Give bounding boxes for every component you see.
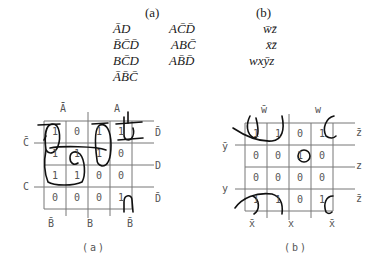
kmap-b-cell: 0 xyxy=(267,167,289,189)
kmap-b-left-label-0: ȳ xyxy=(222,141,228,152)
kmap-b-cell: 0 xyxy=(289,189,311,211)
kmap-b-cell: 0 xyxy=(289,167,311,189)
kmap-b-cell: 1 xyxy=(311,189,333,211)
kmap-b-cell: 1 xyxy=(267,189,289,211)
kmap-b-left-label-1: y xyxy=(222,183,228,194)
kmap-b-bottom-label-1: x xyxy=(288,218,294,229)
kmap-b-cell: 0 xyxy=(311,167,333,189)
kmap-b-cell: 1 xyxy=(289,145,311,167)
kmap-b-bottom-label-2: x̄ xyxy=(329,218,335,229)
kmap-b-cell: 0 xyxy=(289,123,311,145)
kmap-b-right-label-1: z xyxy=(356,160,362,171)
kmap-b-cell: 0 xyxy=(245,145,267,167)
kmap-b-bottom-label-0: x̄ xyxy=(249,218,255,229)
kmap-b-cell: 0 xyxy=(245,167,267,189)
kmap-b-cell: 1 xyxy=(311,123,333,145)
kmap-b-right-label-0: z̄ xyxy=(356,127,362,138)
kmap-b-cell: 1 xyxy=(267,123,289,145)
kmap-b-right-label-2: z̄ xyxy=(356,193,362,204)
kmap-b-top-label-0: w̄ xyxy=(261,104,267,115)
kmap-b-cell: 0 xyxy=(311,145,333,167)
kmap-b-top-label-1: w xyxy=(315,104,321,115)
kmap-b-cell: 0 xyxy=(267,145,289,167)
kmap-b-cell: 1 xyxy=(245,189,267,211)
kmap-b-cell: 1 xyxy=(245,123,267,145)
kmap-b-caption: (b) xyxy=(284,242,308,253)
